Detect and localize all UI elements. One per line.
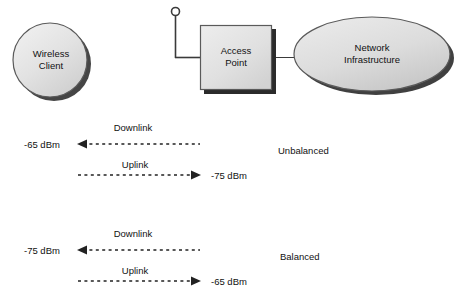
- balanced-downlink-label: Downlink: [90, 228, 176, 239]
- balanced-uplink-arrow: [78, 277, 201, 286]
- wireless-client-node: [13, 23, 91, 101]
- balanced-uplink-label: Uplink: [92, 265, 178, 276]
- balanced-downlink-value: -75 dBm: [24, 245, 60, 256]
- balanced-downlink-arrow: [77, 246, 200, 255]
- balanced-state-label: Balanced: [280, 251, 320, 262]
- antenna-icon: [172, 8, 180, 16]
- unbalanced-uplink-value: -75 dBm: [211, 170, 247, 181]
- unbalanced-state-label: Unbalanced: [278, 145, 329, 156]
- network-infrastructure-node: [294, 17, 454, 95]
- access-point-node: [201, 26, 277, 95]
- diagram-canvas: [0, 0, 462, 296]
- unbalanced-downlink-arrow: [77, 140, 200, 149]
- unbalanced-uplink-arrow: [78, 171, 201, 180]
- unbalanced-downlink-value: -65 dBm: [24, 139, 60, 150]
- network-signal-balance-diagram: Wireless Client Access Point Network Inf…: [0, 0, 462, 296]
- unbalanced-downlink-label: Downlink: [90, 122, 176, 133]
- balanced-uplink-value: -65 dBm: [211, 276, 247, 287]
- unbalanced-uplink-label: Uplink: [92, 159, 178, 170]
